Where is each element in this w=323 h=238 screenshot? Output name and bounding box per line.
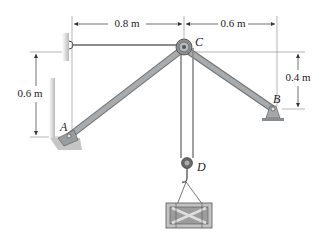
crate [166,203,212,228]
dimension-0.8m: 0.8 m [74,17,182,29]
diagram-canvas: 0.8 m 0.6 m 0.6 m 0.4 m [0,0,323,238]
point-label-b: B [273,92,281,106]
dim-label-left: 0.6 m [17,87,43,99]
pulley-d [182,158,193,183]
point-label-a: A [59,120,68,134]
point-label-c: C [195,35,204,49]
crate-slings [177,182,203,205]
dim-label-top-right: 0.6 m [220,17,246,29]
top-wall-support [62,33,73,61]
point-label-d: D [196,160,206,174]
dim-label-top-left: 0.8 m [114,17,140,29]
dim-label-right: 0.4 m [285,71,311,83]
member-ac [68,48,184,137]
dimension-0.6m-top: 0.6 m [186,17,275,29]
dimension-0.4m-right: 0.4 m [285,54,311,107]
dimension-0.6m-left: 0.6 m [17,54,43,135]
member-cb [184,48,273,109]
frame-diagram: 0.8 m 0.6 m 0.6 m 0.4 m [0,0,323,238]
pin-support-b [262,106,284,121]
pulley-c [176,39,192,55]
